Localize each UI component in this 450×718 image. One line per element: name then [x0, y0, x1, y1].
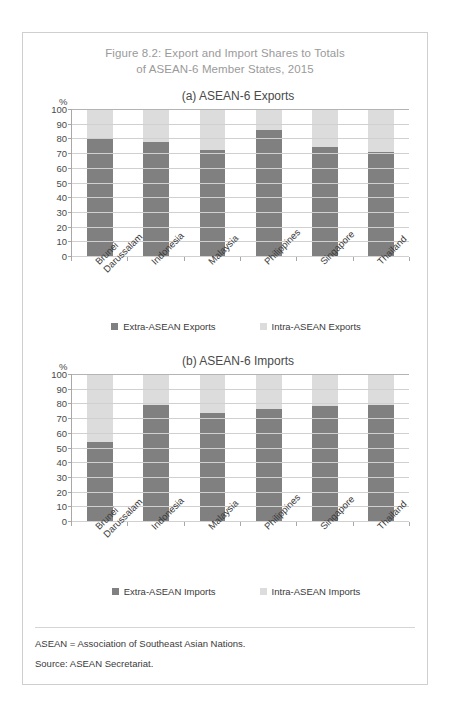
figure-title: Figure 8.2: Export and Import Shares to … — [23, 45, 427, 77]
y-axis-tick-mark — [68, 492, 72, 493]
y-axis-tick-mark — [68, 433, 72, 434]
y-axis-tick-label: 60 — [56, 162, 67, 173]
legend-item-extra-asean-exports: Extra-ASEAN Exports — [111, 321, 215, 332]
gridline — [72, 492, 409, 493]
x-axis-tick-mark — [409, 257, 410, 261]
bar-segment-intra[interactable] — [87, 374, 113, 442]
y-axis-tick-label: 30 — [56, 471, 67, 482]
category-labels-exports: BruneiDarussalamIndonesiaMalaysiaPhilipp… — [71, 257, 409, 319]
y-axis-tick-mark — [68, 138, 72, 139]
bar-segment-extra[interactable] — [256, 130, 282, 256]
figure-title-line-2: of ASEAN-6 Member States, 2015 — [23, 61, 427, 77]
y-axis-tick-mark — [68, 477, 72, 478]
gridline — [72, 212, 409, 213]
gridline — [72, 168, 409, 169]
x-axis-tick-mark — [409, 522, 410, 526]
y-axis-tick-label: 50 — [56, 442, 67, 453]
category-labels-imports: BruneiDarussalamIndonesiaMalaysiaPhilipp… — [71, 522, 409, 584]
panel-exports: (a) ASEAN-6 Exports % 100908070605040302… — [23, 89, 427, 332]
legend-swatch-icon-intra — [260, 588, 267, 595]
note-source: Source: ASEAN Secretariat. — [35, 654, 415, 674]
gridline — [72, 109, 409, 110]
bar-segment-intra[interactable] — [200, 109, 226, 150]
bar-segment-extra[interactable] — [312, 147, 338, 257]
y-axis-tick-mark — [68, 124, 72, 125]
legend-item-intra-asean-exports: Intra-ASEAN Exports — [260, 321, 361, 332]
gridline — [72, 374, 409, 375]
y-axis-tick-label: 0 — [62, 251, 67, 262]
y-axis-tick-mark — [68, 448, 72, 449]
y-axis-tick-label: 80 — [56, 398, 67, 409]
category-slot: Singapore — [296, 522, 352, 584]
bar-segment-intra[interactable] — [256, 109, 282, 130]
y-axis-tick-label: 50 — [56, 177, 67, 188]
bar-segment-intra[interactable] — [143, 109, 169, 142]
category-slot: BruneiDarussalam — [71, 522, 127, 584]
y-axis-tick-mark — [68, 212, 72, 213]
y-axis-tick-label: 40 — [56, 192, 67, 203]
plot-area-imports: % 1009080706050403020100 — [23, 374, 427, 522]
y-axis-tick-mark — [68, 241, 72, 242]
legend-swatch-icon-extra — [112, 588, 119, 595]
y-axis-tick-mark — [68, 168, 72, 169]
bar-segment-intra[interactable] — [368, 109, 394, 152]
bar-segment-extra[interactable] — [200, 413, 226, 521]
panel-b-title: (b) ASEAN-6 Imports — [23, 354, 427, 368]
gridline — [72, 183, 409, 184]
y-axis-tick-label: 0 — [62, 516, 67, 527]
bar-segment-intra[interactable] — [312, 374, 338, 406]
bar-segment-extra[interactable] — [256, 409, 282, 521]
category-slot: Malaysia — [184, 257, 240, 319]
y-axis-tick-mark — [68, 506, 72, 507]
y-axis-tick-label: 20 — [56, 221, 67, 232]
y-axis-tick-label: 40 — [56, 457, 67, 468]
y-axis-tick-label: 80 — [56, 133, 67, 144]
bar-segment-extra[interactable] — [200, 150, 226, 256]
panel-imports: (b) ASEAN-6 Imports % 100908070605040302… — [23, 354, 427, 597]
bar-segment-extra[interactable] — [143, 142, 169, 256]
y-axis-tick-mark — [68, 403, 72, 404]
y-axis-tick-mark — [68, 389, 72, 390]
gridline — [72, 433, 409, 434]
y-axis-tick-label: 60 — [56, 427, 67, 438]
gridline — [72, 403, 409, 404]
gridline — [72, 124, 409, 125]
gridline — [72, 153, 409, 154]
y-axis-tick-label: 10 — [56, 501, 67, 512]
y-axis-tick-label: 100 — [51, 104, 67, 115]
legend-label-extra-exports: Extra-ASEAN Exports — [123, 321, 215, 332]
category-slot: Singapore — [296, 257, 352, 319]
y-axis-tick-mark — [68, 183, 72, 184]
category-slot: Indonesia — [127, 257, 183, 319]
y-axis-tick-mark — [68, 109, 72, 110]
notes-divider — [35, 627, 415, 628]
category-slot: Thailand — [353, 522, 409, 584]
y-axis-tick-label: 30 — [56, 206, 67, 217]
legend-label-intra-exports: Intra-ASEAN Exports — [272, 321, 361, 332]
y-axis-tick-label: 90 — [56, 383, 67, 394]
y-axis-tick-label: 90 — [56, 118, 67, 129]
legend-item-intra-asean-imports: Intra-ASEAN Imports — [260, 586, 361, 597]
y-axis-tick-mark — [68, 462, 72, 463]
gridline — [72, 477, 409, 478]
gridline — [72, 197, 409, 198]
gridline — [72, 227, 409, 228]
y-axis-tick-label: 100 — [51, 369, 67, 380]
legend-swatch-icon-extra — [111, 323, 118, 330]
gridline — [72, 418, 409, 419]
gridline — [72, 462, 409, 463]
y-axis-tick-label: 10 — [56, 236, 67, 247]
category-slot: Thailand — [353, 257, 409, 319]
bar-segment-extra[interactable] — [312, 406, 338, 521]
gridline — [72, 389, 409, 390]
category-slot: Indonesia — [127, 522, 183, 584]
y-axis-tick-mark — [68, 418, 72, 419]
figure-container: Figure 8.2: Export and Import Shares to … — [22, 32, 428, 685]
gridline — [72, 138, 409, 139]
legend-exports: Extra-ASEAN Exports Intra-ASEAN Exports — [23, 321, 427, 332]
legend-imports: Extra-ASEAN Imports Intra-ASEAN Imports — [23, 586, 427, 597]
y-axis-tick-label: 70 — [56, 413, 67, 424]
bar-segment-intra[interactable] — [312, 109, 338, 146]
gridline — [72, 448, 409, 449]
bar-segment-intra[interactable] — [200, 374, 226, 413]
